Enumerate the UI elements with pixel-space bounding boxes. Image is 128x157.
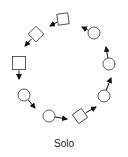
cycle-diagram bbox=[0, 0, 128, 157]
circle-node bbox=[98, 90, 110, 102]
circle-node bbox=[103, 58, 115, 70]
circle-node bbox=[88, 27, 100, 39]
node-square bbox=[72, 107, 96, 124]
arrow-icon bbox=[25, 39, 32, 46]
arrow-icon bbox=[106, 47, 108, 58]
arrow-icon bbox=[86, 107, 96, 113]
node-circle bbox=[43, 110, 67, 122]
arrow-icon bbox=[50, 22, 57, 26]
node-square bbox=[13, 57, 26, 80]
node-square bbox=[50, 13, 69, 26]
square-node bbox=[57, 13, 69, 25]
arrow-icon bbox=[106, 78, 111, 90]
node-circle bbox=[82, 27, 100, 39]
node-circle bbox=[103, 47, 115, 70]
node-circle bbox=[98, 78, 111, 102]
diagram-caption: Solo bbox=[0, 138, 128, 149]
square-node bbox=[72, 108, 87, 123]
arrow-icon bbox=[28, 100, 35, 108]
node-circle bbox=[18, 89, 35, 108]
arrow-icon bbox=[82, 27, 89, 30]
node-square bbox=[25, 26, 44, 46]
square-node bbox=[13, 57, 26, 70]
circle-node bbox=[18, 89, 30, 101]
arrow-icon bbox=[55, 117, 67, 119]
circle-node bbox=[43, 110, 55, 122]
